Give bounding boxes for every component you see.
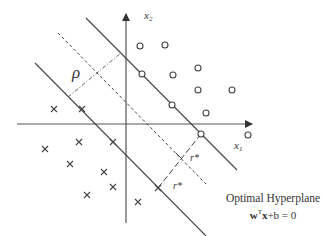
r-star-label-upper: r* — [190, 152, 199, 163]
hyperplane-equation: wTx+b = 0 — [223, 205, 323, 222]
circle-point — [245, 132, 251, 138]
cross-point — [101, 169, 107, 175]
circle-point — [137, 43, 143, 49]
upper-margin-line — [86, 18, 237, 170]
circle-point — [203, 110, 209, 116]
circle-point — [170, 72, 176, 78]
circle-point — [162, 42, 168, 48]
rho-label: ρ — [71, 63, 80, 82]
circle-point — [139, 71, 145, 77]
cross-point — [110, 184, 116, 190]
cross-point — [110, 139, 116, 145]
x1-axis-label: x1 — [233, 139, 242, 153]
cross-point — [155, 185, 161, 191]
circle-point — [195, 65, 201, 71]
caption-title: Optimal Hyperplane — [223, 191, 323, 205]
cross-point — [67, 161, 73, 167]
hyperplane-caption: Optimal Hyperplane wTx+b = 0 — [223, 191, 323, 222]
circle-point — [229, 87, 235, 93]
r-star-tick — [176, 153, 181, 158]
svm-diagram: x2 x1 ρ r* r* Optimal Hyperplane wTx+b =… — [0, 0, 324, 236]
cross-point — [42, 146, 48, 152]
cross-point — [135, 199, 141, 205]
lower-margin-line — [35, 63, 206, 236]
cross-point — [51, 106, 57, 112]
cross-point — [76, 139, 82, 145]
circle-point — [198, 131, 204, 137]
circle-point — [195, 87, 201, 93]
r-star-label-lower: r* — [173, 180, 182, 191]
x2-axis-label: x2 — [143, 9, 153, 23]
class-cross-points — [42, 106, 161, 205]
circle-point — [169, 102, 175, 108]
cross-point — [84, 192, 90, 198]
